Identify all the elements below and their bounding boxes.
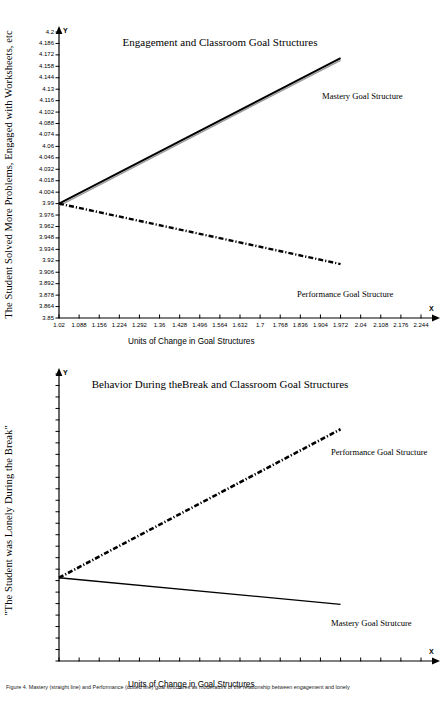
y-tick-label: 3.906 (12, 269, 54, 275)
y-tick-label: 4.046 (12, 154, 54, 160)
x-axis-mark-2: X (429, 648, 434, 655)
y-tick-label: 4.13 (12, 86, 54, 92)
y-tick-label: 4.102 (12, 109, 54, 115)
plot-svg-2 (0, 348, 446, 693)
y-tick-label: 4.186 (12, 40, 54, 46)
y-tick-label: 4.032 (12, 166, 54, 172)
y-tick-label: 3.962 (12, 223, 54, 229)
y-tick-label: 4.2 (12, 29, 54, 35)
series-label-performance-1: Performance Goal Structure (297, 289, 393, 299)
figure-page: The Student Solved More Problems, Engage… (0, 0, 446, 701)
x-axis-arrow-2 (432, 658, 440, 665)
plot-area-2 (0, 348, 446, 693)
y-tick-label: 4.144 (12, 74, 54, 80)
performance-line-2 (59, 429, 341, 578)
y-tick-label: 3.892 (12, 280, 54, 286)
figure-engagement: The Student Solved More Problems, Engage… (0, 0, 446, 348)
y-tick-label: 3.99 (12, 200, 54, 206)
mastery-line-1 (59, 58, 341, 203)
x-tick-label: 2.244 (406, 322, 436, 328)
y-tick-label: 3.864 (12, 303, 54, 309)
y-tick-label: 4.116 (12, 97, 54, 103)
figure-loneliness: "The Student was Lonely During the Break… (0, 348, 446, 693)
series-label-mastery-1: Mastery Goal Structure (322, 91, 403, 101)
y-tick-label: 4.172 (12, 51, 54, 57)
y-tick-label: 3.976 (12, 212, 54, 218)
y-tick-label: 3.85 (12, 315, 54, 321)
figure-caption: Figure 4. Mastery (straight line) and Pe… (6, 684, 440, 691)
x-axis-title-1: Units of Change in Goal Structures (128, 337, 255, 346)
y-tick-label: 4.088 (12, 120, 54, 126)
series-label-mastery-2: Mastery Goal Strutcure (331, 618, 412, 628)
y-tick-label: 3.934 (12, 246, 54, 252)
tick-marks-1 (56, 32, 422, 319)
y-tick-label: 3.878 (12, 292, 54, 298)
mastery-line-2 (59, 578, 341, 605)
x-axis-mark-1: X (429, 305, 434, 312)
y-tick-label: 4.074 (12, 131, 54, 137)
y-axis-arrow-2 (56, 368, 63, 376)
y-tick-label: 3.948 (12, 234, 54, 240)
y-axis-arrow-1 (56, 26, 63, 34)
y-tick-label: 4.018 (12, 177, 54, 183)
performance-line-1 (59, 204, 341, 264)
y-tick-label: 4.06 (12, 143, 54, 149)
y-tick-label: 3.92 (12, 257, 54, 263)
y-tick-label: 4.004 (12, 189, 54, 195)
x-axis-arrow-1 (432, 315, 440, 322)
y-axis-mark-1: Y (63, 27, 68, 34)
mastery-line-shadow-1 (59, 60, 341, 205)
y-axis-mark-2: Y (63, 369, 68, 376)
y-tick-label: 4.158 (12, 63, 54, 69)
series-label-performance-2: Performance Goal Structure (331, 447, 427, 457)
